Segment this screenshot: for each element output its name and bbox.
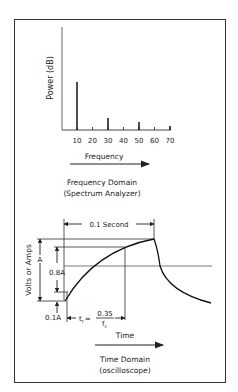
svg-text:60: 60 (150, 137, 159, 145)
time-caption-2: (oscilloscope) (99, 366, 150, 375)
freq-caption-2: (Spectrum Analyzer) (63, 189, 140, 198)
amp80-label: 0.8A (49, 269, 65, 277)
time-plot: 0.1 Second A 0.8A 0.1A Volts or Amps tr≈… (24, 219, 212, 375)
diagram-canvas: Power (dB) 10 20 30 40 50 60 70 Frequenc… (0, 0, 238, 392)
tick-labels: 10 20 30 40 50 60 70 (73, 137, 175, 145)
power-label: Power (dB) (46, 56, 55, 100)
amp10-label: 0.1A (45, 314, 61, 322)
rise-num: 0.35 (97, 310, 113, 318)
spectrum-plot: Power (dB) 10 20 30 40 50 60 70 Frequenc… (46, 27, 174, 198)
svg-text:10: 10 (73, 137, 82, 145)
svg-text:30: 30 (104, 137, 113, 145)
svg-text:40: 40 (119, 137, 128, 145)
rise-den: fc (102, 320, 107, 329)
frequency-label: Frequency (85, 152, 124, 161)
waveform (65, 239, 211, 303)
svg-text:20: 20 (88, 137, 97, 145)
time-caption-1: Time Domain (99, 355, 150, 364)
svg-text:50: 50 (135, 137, 144, 145)
spectral-lines (77, 82, 170, 130)
freq-caption-1: Frequency Domain (67, 178, 137, 187)
rise-lhs: tr≈ (79, 315, 91, 324)
time-label: Time (115, 331, 135, 340)
svg-text:70: 70 (166, 137, 175, 145)
period-label: 0.1 Second (89, 221, 128, 229)
amp-label: A (38, 256, 43, 264)
volts-label: Volts or Amps (24, 244, 33, 296)
